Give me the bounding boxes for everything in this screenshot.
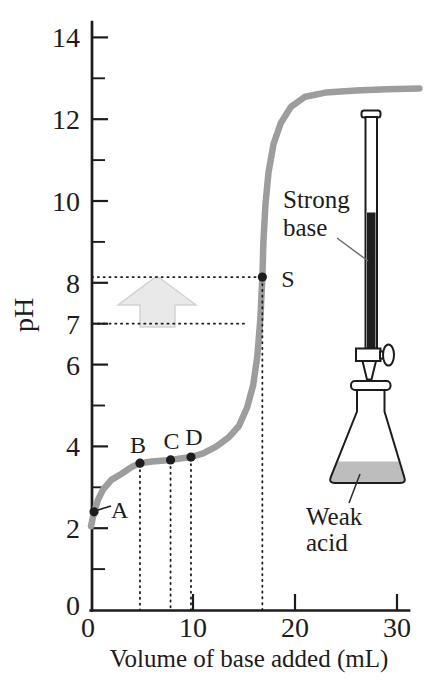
- x-tick-label-30: 30: [383, 612, 411, 643]
- y-tick-label-2: 2: [66, 513, 80, 544]
- flask-rim: [351, 381, 391, 390]
- titration-figure: 024678101214 0102030 pH Volume of base a…: [0, 0, 434, 691]
- data-point-B: [135, 459, 144, 468]
- y-tick-label-14: 14: [52, 22, 80, 53]
- point-label-D: D: [185, 424, 202, 450]
- burette-illustration: [356, 111, 394, 380]
- strong-base-pointer-line: [337, 238, 368, 261]
- weak-acid-label-line1: Weak: [306, 503, 363, 530]
- y-tick-label-6: 6: [66, 350, 80, 381]
- y-tick-label-10: 10: [52, 186, 80, 217]
- flask-liquid: [330, 462, 405, 484]
- burette-liquid: [367, 213, 376, 349]
- y-axis-ticks: 024678101214: [52, 22, 108, 621]
- stopcock-knob: [383, 345, 394, 366]
- chart-svg: 024678101214 0102030 pH Volume of base a…: [0, 0, 434, 691]
- point-label-B: B: [130, 432, 146, 458]
- x-tick-label-20: 20: [281, 612, 309, 643]
- y-tick-label-4: 4: [66, 431, 80, 462]
- strong-base-label-line2: base: [283, 214, 327, 241]
- y-tick-label-0: 0: [66, 590, 80, 621]
- x-tick-label-10: 10: [179, 612, 207, 643]
- y-tick-label-7: 7: [66, 309, 80, 340]
- point-label-A: A: [111, 497, 129, 523]
- burette-tip: [363, 361, 377, 380]
- x-axis-title: Volume of base added (mL): [110, 645, 389, 673]
- point-label-C: C: [164, 428, 180, 454]
- data-point-C: [166, 455, 175, 464]
- y-tick-label-12: 12: [52, 104, 80, 135]
- point-a-leader-line: [98, 506, 111, 510]
- stopcock-body: [356, 349, 381, 362]
- x-tick-label-0: 0: [81, 612, 95, 643]
- data-point-A: [89, 507, 98, 516]
- data-point-S: [258, 272, 267, 281]
- point-label-S: S: [281, 266, 294, 292]
- strong-base-label-line1: Strong: [283, 186, 350, 213]
- y-tick-label-8: 8: [66, 268, 80, 299]
- data-point-D: [186, 452, 195, 461]
- y-axis-label: pH: [8, 298, 39, 332]
- x-axis-ticks: 0102030: [81, 594, 411, 643]
- weak-acid-label-line2: acid: [306, 529, 348, 556]
- flask-illustration: [330, 381, 405, 483]
- up-arrow-icon: [118, 276, 196, 327]
